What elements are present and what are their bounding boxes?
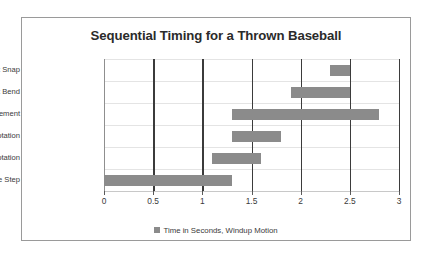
x-axis-tick [399, 191, 400, 195]
x-axis-tick [301, 191, 302, 195]
x-axis-tick [350, 191, 351, 195]
y-axis-label-hip-rotation: Hip Rotation [0, 153, 20, 162]
y-axis-label-wrist-snap: Wrist Snap [0, 65, 20, 74]
y-axis-label-waist-bend: Waist Bend [0, 87, 20, 96]
y-axis-category-labels: Wrist SnapWaist BendArm MovementShoulder… [0, 59, 20, 191]
vertical-gridline [252, 59, 253, 191]
x-axis-tick-label: 1.5 [246, 196, 258, 206]
x-axis-tick [252, 191, 253, 195]
chart-frame: Sequential Timing for a Thrown Baseball … [21, 17, 411, 241]
y-axis-label-arm-movement: Arm Movement [0, 109, 20, 118]
y-axis-label-shoulder-rotation: Shoulder Rotation [0, 131, 20, 140]
x-axis-ticks: 00.511.522.53 [104, 191, 399, 211]
x-axis-tick-label: 0 [102, 196, 107, 206]
x-axis-tick [104, 191, 105, 195]
y-axis-label-stride-step: Stride Step [0, 175, 20, 184]
x-axis-tick-label: 3 [397, 196, 402, 206]
bar-arm-movement[interactable] [232, 109, 380, 120]
x-axis-tick [153, 191, 154, 195]
x-axis-tick-label: 2.5 [344, 196, 356, 206]
bar-shoulder-rotation[interactable] [232, 131, 281, 142]
plot-area [104, 59, 399, 191]
x-axis-tick-label: 0.5 [147, 196, 159, 206]
vertical-gridline [104, 59, 105, 191]
bar-hip-rotation[interactable] [212, 153, 261, 164]
x-axis-tick-label: 1 [200, 196, 205, 206]
x-axis-tick-label: 2 [298, 196, 303, 206]
chart-title: Sequential Timing for a Thrown Baseball [22, 28, 410, 43]
vertical-gridline [153, 59, 154, 191]
vertical-gridline [202, 59, 203, 191]
vertical-gridline [350, 59, 351, 191]
vertical-gridline [301, 59, 302, 191]
legend-label: Time in Seconds, Windup Motion [163, 226, 277, 235]
bar-wrist-snap[interactable] [330, 65, 350, 76]
bar-stride-step[interactable] [104, 175, 232, 186]
vertical-gridline [399, 59, 400, 191]
bar-waist-bend[interactable] [291, 87, 350, 98]
x-axis-tick [202, 191, 203, 195]
chart-legend: Time in Seconds, Windup Motion [22, 219, 410, 237]
square-swatch-icon [154, 227, 160, 233]
